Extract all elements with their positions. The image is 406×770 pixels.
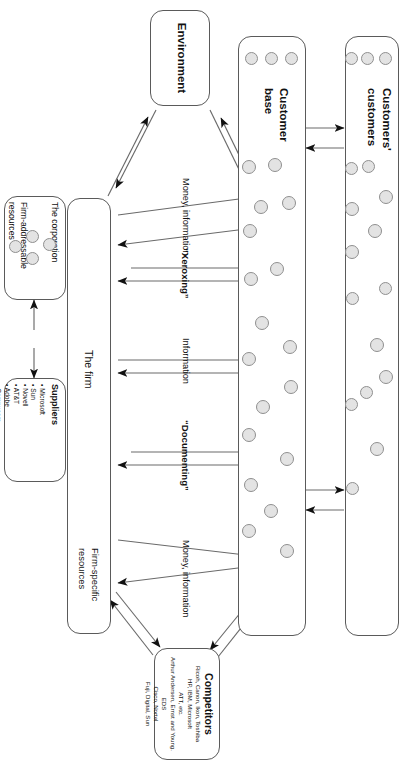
the-firm-sub-1: Firm-specific [90,548,101,601]
competitors-item: Cisco, Nortel [152,650,160,758]
competitors-item: HP, IBM, Microsoft [185,650,193,758]
customer-base-label-1: Customer [276,88,290,142]
the-corporation-label: The corporation [50,202,60,262]
flow-label-money-information-left: Money, information [180,178,191,255]
supplier-item: • Sun [29,384,38,480]
bullet-icon: • [13,384,20,386]
competitors-item: Fuji, Digital, Sun [143,650,151,758]
diagram-canvas: Customers' customers Customer base [0,0,406,770]
supplier-item-label: AT&T [13,388,20,404]
competitors-label: Competitors [203,652,215,756]
supplier-item-label: Sun [30,388,37,400]
supplier-item-label: Microsoft [39,388,46,415]
the-firm-label: The firm [83,350,95,389]
diagram-frame: Customers' customers Customer base [0,0,406,770]
the-corporation-sub-2: resources [7,202,17,240]
bullet-icon: • [0,384,2,386]
customers-customers-label-1: Customers' [379,88,393,151]
bullet-icon: • [4,384,11,386]
supplier-item: • Adobe [2,384,11,480]
environment-label: Environment [174,22,188,94]
flow-label-information: Information [180,338,191,384]
supplier-item: • Compucom [0,384,2,480]
flow-label-xeroxing: “Xeroxing” [180,248,191,299]
competitors-item: Ricoh, Canon, Ikon, Toshiba [194,650,202,758]
flow-label-money-information-right: Money, information [180,540,191,617]
competitors-item: ATT, etc. [177,650,185,758]
bullet-icon: • [30,384,37,386]
customers-customers-label-2: customers [364,88,378,146]
bullet-icon: • [22,384,29,386]
supplier-item: • Microsoft [37,384,46,480]
the-firm-sub-2: resources [77,548,88,589]
suppliers-items: • Microsoft • Sun • Novell • AT&T • Adob… [0,384,46,480]
supplier-item-label: Novell [22,388,29,406]
supplier-item: • Novell [20,384,29,480]
suppliers-label: Suppliers [49,384,60,425]
supplier-item: • AT&T [11,384,20,480]
supplier-item-label: Adobe [4,388,11,407]
competitors-items: Ricoh, Canon, Ikon, Toshiba HP, IBM, Mic… [143,650,202,758]
competitors-item: Arthur Andersen, Ernst and Young. EDS [160,650,177,758]
node-customer-base[interactable] [238,36,306,636]
customer-base-label-2: base [261,88,275,114]
flow-label-documenting: “Documenting” [180,420,191,491]
supplier-item-label: Compucom [0,388,2,422]
bullet-icon: • [39,384,46,386]
